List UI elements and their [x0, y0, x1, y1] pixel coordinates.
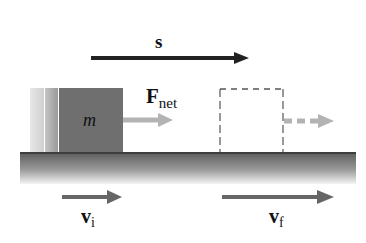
displacement-label: s: [155, 31, 162, 52]
motion-trail-block-1: [30, 88, 44, 153]
final-position-outline: [220, 89, 283, 153]
displacement-arrow: [91, 52, 249, 64]
final-velocity-arrow: [222, 190, 334, 204]
final-velocity-label: vf: [269, 205, 284, 230]
net-force-label: Fnet: [146, 84, 178, 111]
initial-velocity-label: vi: [81, 205, 95, 230]
final-force-arrow-dashed: [284, 114, 334, 128]
ground-surface: [20, 152, 356, 184]
mass-label: m: [83, 110, 96, 130]
net-force-arrow: [123, 113, 173, 127]
motion-trail-block-2: [45, 88, 58, 153]
initial-velocity-arrow: [62, 190, 122, 204]
work-energy-diagram: s m Fnet vi vf: [0, 0, 366, 243]
